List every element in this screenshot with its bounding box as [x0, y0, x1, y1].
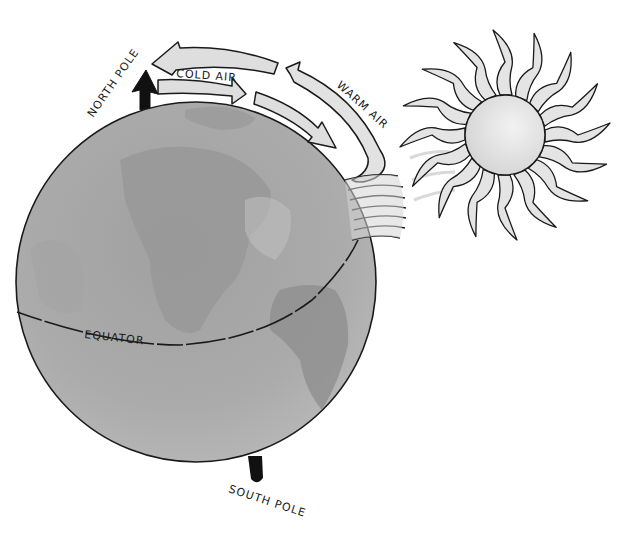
- sun-disc: [465, 95, 545, 175]
- label-north-pole: NORTH POLE: [85, 46, 142, 119]
- sun: [400, 30, 610, 240]
- label-south-pole: SOUTH POLE: [227, 482, 308, 519]
- north-pole-arrow: [132, 70, 158, 110]
- globe: [16, 102, 376, 462]
- south-pole-arrow: [248, 456, 263, 482]
- diagram-canvas: NORTH POLE COLD AIR WARM AIR EQUATOR SOU…: [0, 0, 638, 536]
